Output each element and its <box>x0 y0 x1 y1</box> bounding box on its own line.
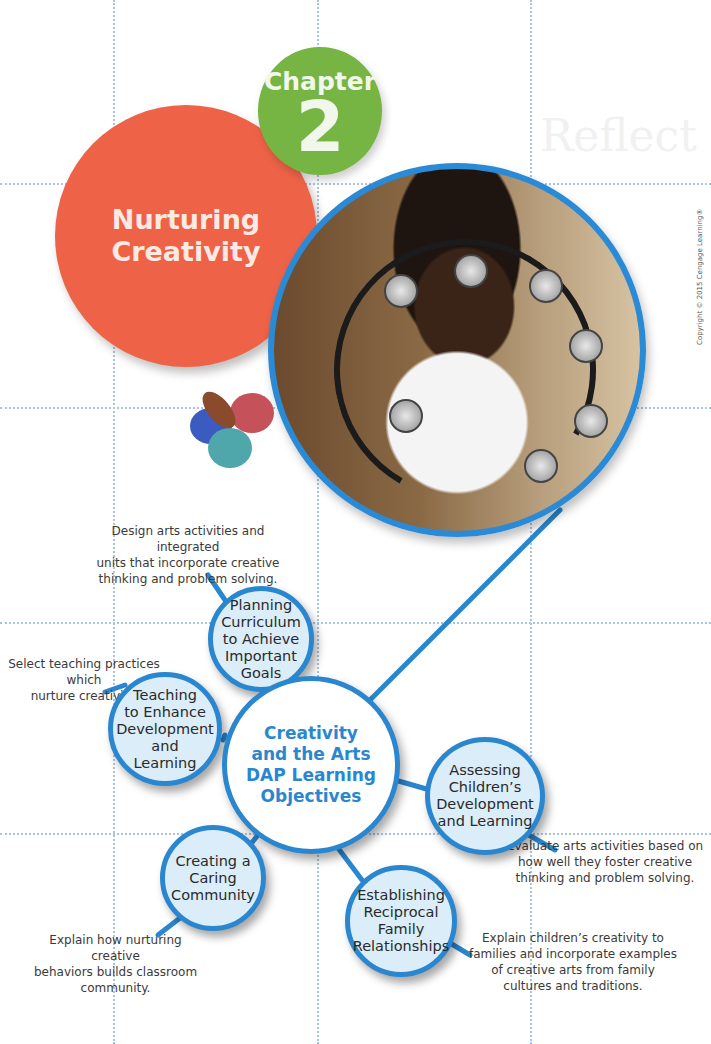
description-line: cultures and traditions. <box>468 978 678 994</box>
node-teaching: Teaching to Enhance Development and Lear… <box>108 672 222 786</box>
node-label-line: to Achieve <box>221 631 301 648</box>
node-label-line: Curriculum <box>221 614 301 631</box>
node-establishing-family: Establishing Reciprocal Family Relations… <box>345 865 457 977</box>
jingle-icon <box>569 329 603 363</box>
node-label-line: Learning <box>116 755 214 772</box>
description-line: Explain how nurturing creative <box>28 932 203 964</box>
node-label-line: Establishing <box>353 887 450 904</box>
node-label-line: Children’s <box>436 779 534 796</box>
node-label-line: Development <box>436 796 534 813</box>
node-label-line: Important <box>221 648 301 665</box>
chapter-title-line: Nurturing <box>111 204 260 236</box>
node-label-line: and Learning <box>436 813 534 830</box>
jingle-icon <box>389 399 423 433</box>
jingle-icon <box>524 449 558 483</box>
description-line: thinking and problem solving. <box>505 870 705 886</box>
description-line: of creative arts from family <box>468 962 678 978</box>
center-objectives-circle: Creativity and the Arts DAP Learning Obj… <box>222 676 400 854</box>
description-line: Design arts activities and integrated <box>88 523 288 555</box>
jingle-icon <box>384 274 418 308</box>
node-description-creating: Explain how nurturing creative behaviors… <box>28 932 203 996</box>
clay-teal <box>208 428 252 468</box>
jingle-icon <box>574 404 608 438</box>
description-line: thinking and problem solving. <box>88 571 288 587</box>
node-label-line: Teaching <box>116 687 214 704</box>
node-creating-community: Creating a Caring Community <box>160 825 266 931</box>
node-assessing: Assessing Children’s Development and Lea… <box>425 737 545 855</box>
node-label-line: Relationships <box>353 938 450 955</box>
node-label-line: Assessing <box>436 762 534 779</box>
photo-copyright: Copyright © 2015 Cengage Learning® <box>696 209 704 345</box>
jingle-icon <box>529 269 563 303</box>
description-line: Evaluate arts activities based on <box>505 838 705 854</box>
chapter-number: 2 <box>296 92 345 162</box>
description-line: units that incorporate creative <box>88 555 288 571</box>
node-label-line: Reciprocal <box>353 904 450 921</box>
description-line: Explain children’s creativity to <box>468 930 678 946</box>
chapter-photo <box>268 163 646 537</box>
center-label-line: DAP Learning <box>246 765 376 786</box>
node-label-line: Development <box>116 721 214 738</box>
description-line: community. <box>28 980 203 996</box>
node-label-line: and <box>116 738 214 755</box>
description-line: how well they foster creative <box>505 854 705 870</box>
node-label-line: Community <box>171 887 255 904</box>
node-label-line: Creating a <box>171 853 255 870</box>
node-description-planning: Design arts activities and integrated un… <box>88 523 288 587</box>
center-label-line: Objectives <box>246 786 376 807</box>
node-description-establishing: Explain children’s creativity to familie… <box>468 930 678 994</box>
clay-red <box>230 393 274 433</box>
node-label-line: Family <box>353 921 450 938</box>
node-label-line: Caring <box>171 870 255 887</box>
chapter-number-circle: Chapter 2 <box>258 47 382 175</box>
center-label-line: and the Arts <box>246 744 376 765</box>
node-label-line: to Enhance <box>116 704 214 721</box>
chapter-title-line: Creativity <box>111 236 260 268</box>
node-description-assessing: Evaluate arts activities based on how we… <box>505 838 705 886</box>
node-label-line: Planning <box>221 597 301 614</box>
center-label-line: Creativity <box>246 723 376 744</box>
jingle-icon <box>454 254 488 288</box>
chapter-title: Nurturing Creativity <box>111 204 260 268</box>
description-line: behaviors builds classroom <box>28 964 203 980</box>
description-line: families and incorporate examples <box>468 946 678 962</box>
